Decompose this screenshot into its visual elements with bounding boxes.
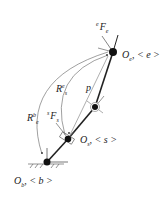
link-mid-end [95,52,113,107]
arc-end-marker-3 [68,132,70,134]
vector-p [70,56,108,135]
rot-eb-sub: e [36,119,39,125]
arc-rot-es [61,55,108,135]
label-vector-p: p [86,83,91,93]
end-frame-tag: , < e > [132,49,160,60]
sensor-joint [65,136,72,143]
link-base-sensor [47,139,68,162]
base-joint [44,159,51,166]
sensor-frame-tag: , < s > [90,134,117,145]
label-force-end: eFe [96,21,108,32]
force-end-pre: e [96,21,99,27]
rot-eb-sup: b [33,112,36,118]
force-end-sub: e [106,28,109,34]
force-sensor-sub: s [56,117,58,123]
arc-end-marker-2 [41,152,43,154]
mid-joint [92,104,98,110]
label-rot-es: Res [56,84,67,94]
label-sensor-frame: Os, < s > [80,135,117,145]
label-rot-eb: Rbe [27,113,39,123]
vector-p-main: p [86,82,91,93]
base-frame-tag: , < b > [24,175,53,186]
force-sensor-pre: s [47,110,49,116]
label-end-frame: Oe, < e > [122,50,160,60]
robot-kinematics-diagram [0,0,168,199]
label-force-sensor: sFs [47,110,59,121]
label-base-frame: Ob, < b > [14,176,53,186]
arc-end-marker-1 [106,54,108,56]
end-effector-joint [109,48,117,56]
rot-es-sub: s [65,90,67,96]
rot-es-sup: e [62,83,65,89]
